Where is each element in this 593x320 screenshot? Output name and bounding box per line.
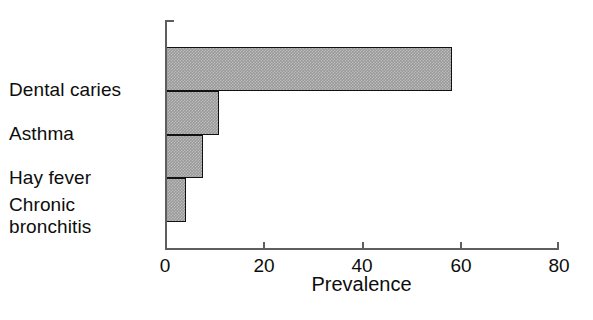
y-axis-top-cap-icon <box>165 20 174 22</box>
x-axis-title: Prevalence <box>165 272 558 296</box>
category-label-text: Asthma <box>9 123 159 145</box>
bar-asthma <box>165 91 219 135</box>
x-tick-80 <box>557 242 559 250</box>
bar-hay-fever <box>165 135 203 178</box>
x-tick-40 <box>362 242 364 250</box>
category-label-text: Dental caries <box>9 79 159 101</box>
bar-dental-caries <box>165 47 452 91</box>
x-tick-60 <box>460 242 462 250</box>
x-tick-0 <box>165 242 167 250</box>
category-label-chronic-bronchitis: Chronic bronchitis <box>9 172 159 260</box>
category-label-text: Chronic bronchitis <box>9 194 159 238</box>
bar-chronic-bronchitis <box>165 178 186 222</box>
prevalence-bar-chart: Dental caries Asthma Hay fever Chronic b… <box>0 0 593 320</box>
x-tick-20 <box>263 242 265 250</box>
plot-area: 0 20 40 60 80 <box>165 20 558 248</box>
y-axis-spine <box>165 20 167 248</box>
